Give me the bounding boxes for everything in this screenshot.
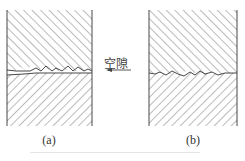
panel-b-label: (b): [173, 133, 213, 148]
panel-a-label: (a): [29, 133, 69, 148]
gap-annotation: 空隙: [104, 54, 128, 71]
caption-remnant: [30, 152, 200, 154]
panel-a: [7, 10, 92, 126]
panel-b: [149, 10, 237, 126]
